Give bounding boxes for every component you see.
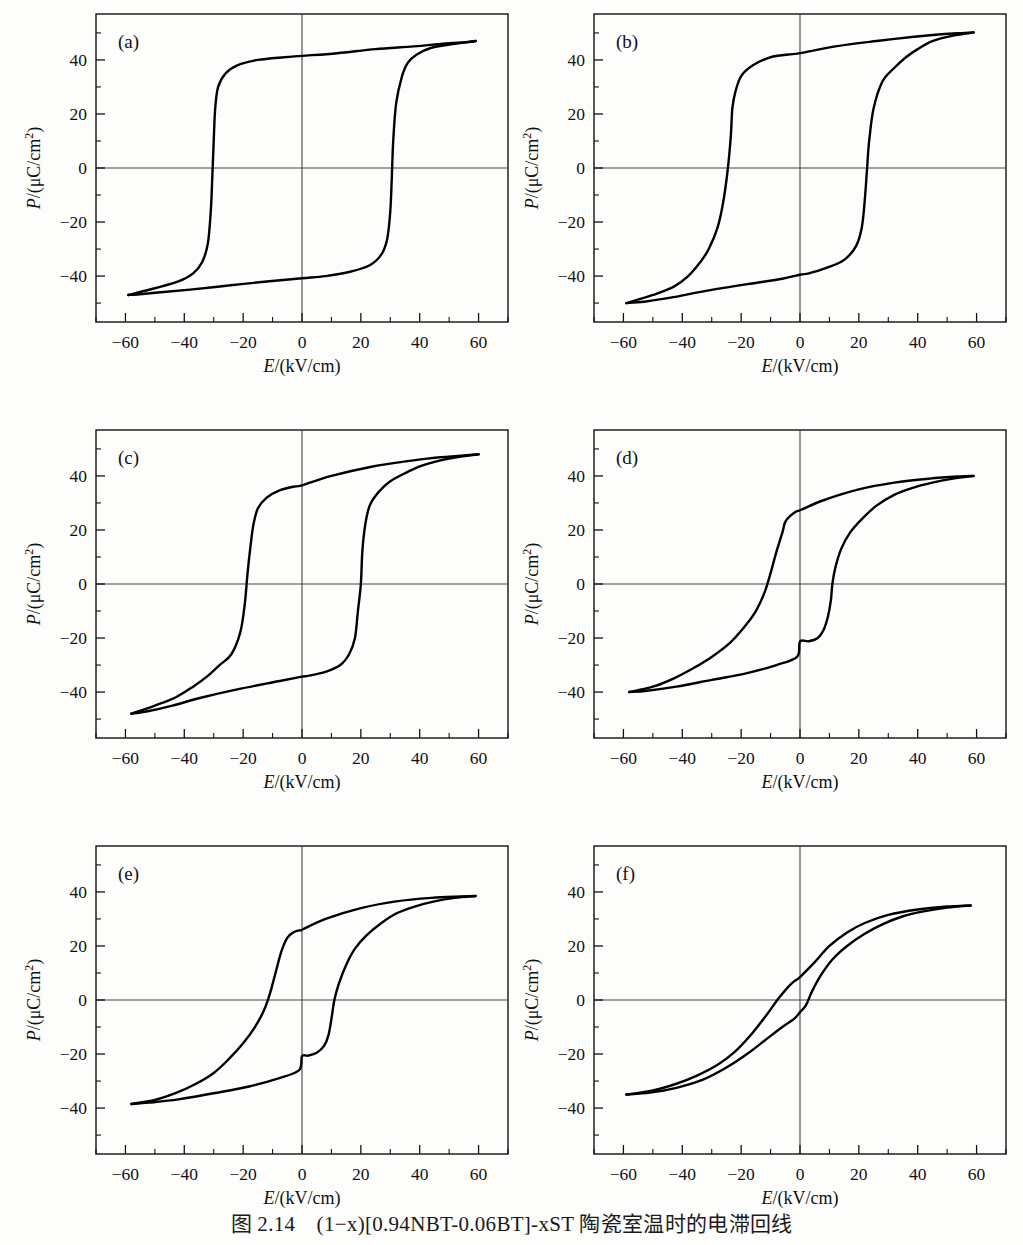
y-tick-label: 0 xyxy=(576,990,585,1010)
y-tick-label: 40 xyxy=(568,882,586,902)
x-tick-label: 20 xyxy=(850,332,868,352)
y-tick-label: 0 xyxy=(78,990,87,1010)
x-tick-label: −60 xyxy=(610,1164,638,1184)
x-tick-label: −40 xyxy=(669,748,697,768)
panel-label: (f) xyxy=(616,863,635,885)
y-tick-label: 0 xyxy=(78,158,87,178)
x-tick-label: 0 xyxy=(298,1164,307,1184)
y-tick-label: 20 xyxy=(70,104,88,124)
y-tick-label: 0 xyxy=(78,574,87,594)
x-axis-label: E/(kV/cm) xyxy=(263,356,341,377)
y-tick-label: 40 xyxy=(70,50,88,70)
y-tick-label: −20 xyxy=(558,212,586,232)
panel-label: (e) xyxy=(118,863,139,885)
y-tick-label: −40 xyxy=(60,682,88,702)
panel-c: −60−40−20020406040200−20−40(c)E/(kV/cm)P… xyxy=(18,418,530,790)
panel-label: (d) xyxy=(616,447,638,469)
x-tick-label: 0 xyxy=(796,1164,805,1184)
panel-label: (b) xyxy=(616,31,638,53)
panel-label: (a) xyxy=(118,31,139,53)
y-tick-label: 0 xyxy=(576,574,585,594)
x-axis-label: E/(kV/cm) xyxy=(761,356,839,377)
x-tick-label: 60 xyxy=(470,332,488,352)
x-tick-label: 60 xyxy=(968,1164,986,1184)
x-tick-label: 0 xyxy=(298,748,307,768)
x-tick-label: −60 xyxy=(112,1164,140,1184)
y-axis-label: P/(μC/cm2) xyxy=(520,543,543,627)
x-tick-label: 20 xyxy=(850,1164,868,1184)
x-tick-label: −40 xyxy=(669,332,697,352)
x-tick-label: 60 xyxy=(968,332,986,352)
y-tick-label: 20 xyxy=(70,520,88,540)
x-axis-label: E/(kV/cm) xyxy=(263,772,341,793)
x-tick-label: 40 xyxy=(909,748,927,768)
x-tick-label: −60 xyxy=(112,748,140,768)
x-axis-label: E/(kV/cm) xyxy=(761,1188,839,1209)
x-tick-label: −20 xyxy=(229,332,257,352)
x-tick-label: −40 xyxy=(171,748,199,768)
y-tick-label: −40 xyxy=(558,682,586,702)
panel-d: −60−40−20020406040200−20−40(d)E/(kV/cm)P… xyxy=(516,418,1023,790)
x-tick-label: 40 xyxy=(909,1164,927,1184)
panel-b: −60−40−20020406040200−20−40(b)E/(kV/cm)P… xyxy=(516,2,1023,374)
x-tick-label: 60 xyxy=(968,748,986,768)
x-tick-label: 20 xyxy=(850,748,868,768)
y-tick-label: 40 xyxy=(70,882,88,902)
y-tick-label: −40 xyxy=(558,266,586,286)
y-tick-label: 40 xyxy=(70,466,88,486)
x-tick-label: −60 xyxy=(112,332,140,352)
y-tick-label: 20 xyxy=(568,936,586,956)
x-tick-label: 40 xyxy=(411,748,429,768)
panel-label: (c) xyxy=(118,447,139,469)
x-tick-label: 20 xyxy=(352,748,370,768)
y-tick-label: −20 xyxy=(60,628,88,648)
x-tick-label: −20 xyxy=(727,748,755,768)
y-tick-label: 0 xyxy=(576,158,585,178)
x-tick-label: −60 xyxy=(610,748,638,768)
panel-e: −60−40−20020406040200−20−40(e)E/(kV/cm)P… xyxy=(18,834,530,1206)
x-tick-label: 20 xyxy=(352,1164,370,1184)
x-tick-label: −20 xyxy=(727,332,755,352)
figure-caption: 图 2.14 (1−x)[0.94NBT-0.06BT]-xST 陶瓷室温时的电… xyxy=(0,1207,1023,1237)
x-tick-label: 40 xyxy=(909,332,927,352)
y-tick-label: −40 xyxy=(558,1098,586,1118)
y-tick-label: 40 xyxy=(568,50,586,70)
caption-text: 图 2.14 (1−x)[0.94NBT-0.06BT]-xST 陶瓷室温时的电… xyxy=(231,1212,793,1236)
y-axis-label: P/(μC/cm2) xyxy=(520,959,543,1043)
x-axis-label: E/(kV/cm) xyxy=(761,772,839,793)
x-tick-label: 0 xyxy=(796,748,805,768)
x-tick-label: −20 xyxy=(229,748,257,768)
x-tick-label: −40 xyxy=(171,1164,199,1184)
y-tick-label: −40 xyxy=(60,1098,88,1118)
x-tick-label: 40 xyxy=(411,332,429,352)
x-tick-label: 60 xyxy=(470,748,488,768)
x-tick-label: 0 xyxy=(796,332,805,352)
x-tick-label: −20 xyxy=(229,1164,257,1184)
y-tick-label: −20 xyxy=(60,1044,88,1064)
y-tick-label: 40 xyxy=(568,466,586,486)
y-tick-label: −20 xyxy=(558,1044,586,1064)
panel-a: −60−40−20020406040200−20−40(a)E/(kV/cm)P… xyxy=(18,2,530,374)
y-axis-label: P/(μC/cm2) xyxy=(520,127,543,211)
y-tick-label: 20 xyxy=(70,936,88,956)
x-tick-label: −60 xyxy=(610,332,638,352)
x-tick-label: −40 xyxy=(171,332,199,352)
x-tick-label: 40 xyxy=(411,1164,429,1184)
x-tick-label: 20 xyxy=(352,332,370,352)
y-tick-label: −20 xyxy=(60,212,88,232)
x-axis-label: E/(kV/cm) xyxy=(263,1188,341,1209)
panel-f: −60−40−20020406040200−20−40(f)E/(kV/cm)P… xyxy=(516,834,1023,1206)
x-tick-label: −40 xyxy=(669,1164,697,1184)
figure-hysteresis-loops: −60−40−20020406040200−20−40(a)E/(kV/cm)P… xyxy=(0,0,1023,1245)
y-tick-label: −40 xyxy=(60,266,88,286)
y-axis-label: P/(μC/cm2) xyxy=(22,543,45,627)
y-tick-label: 20 xyxy=(568,104,586,124)
x-tick-label: 0 xyxy=(298,332,307,352)
y-tick-label: −20 xyxy=(558,628,586,648)
y-axis-label: P/(μC/cm2) xyxy=(22,959,45,1043)
x-tick-label: −20 xyxy=(727,1164,755,1184)
x-tick-label: 60 xyxy=(470,1164,488,1184)
y-axis-label: P/(μC/cm2) xyxy=(22,127,45,211)
y-tick-label: 20 xyxy=(568,520,586,540)
